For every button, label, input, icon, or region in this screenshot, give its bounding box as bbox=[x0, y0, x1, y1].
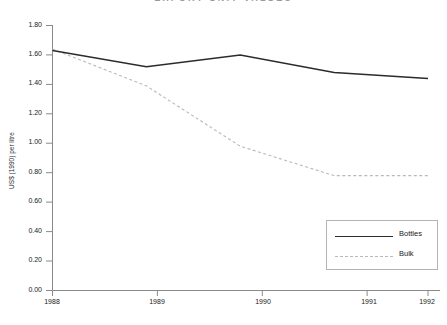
legend-swatch-bulk-icon bbox=[335, 256, 393, 257]
legend-item-bulk: Bulk bbox=[327, 248, 437, 264]
legend-item-bottles: Bottles bbox=[327, 228, 437, 244]
legend-label-bottles: Bottles bbox=[399, 229, 422, 238]
chart-figure: EXPORT UNIT VALUES US$ (1990) per litre … bbox=[0, 0, 447, 325]
plot-area bbox=[0, 0, 447, 325]
series-line-bulk bbox=[53, 49, 429, 176]
series-line-bottles bbox=[53, 51, 429, 79]
legend-swatch-bottles-icon bbox=[335, 236, 393, 237]
chart-legend: Bottles Bulk bbox=[326, 220, 438, 270]
y-tick-marks bbox=[46, 26, 53, 291]
x-tick-marks bbox=[53, 291, 429, 297]
legend-label-bulk: Bulk bbox=[399, 249, 414, 258]
